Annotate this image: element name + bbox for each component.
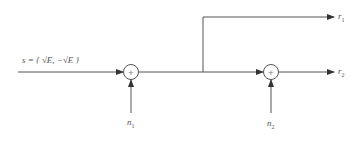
branch-r1-line xyxy=(203,17,334,72)
plus-icon: + xyxy=(268,68,273,78)
summer-1: + xyxy=(124,65,139,80)
noise-n2-label: n2 xyxy=(267,118,275,130)
plus-icon: + xyxy=(128,68,133,78)
summer-2: + xyxy=(264,65,279,80)
input-signal-label: s = { √E, −√E } xyxy=(22,55,79,65)
block-diagram: + + xyxy=(0,0,351,141)
noise-n1-label: n1 xyxy=(127,117,135,129)
output-r2-label: r2 xyxy=(338,66,345,78)
output-r1-label: r1 xyxy=(338,11,345,23)
